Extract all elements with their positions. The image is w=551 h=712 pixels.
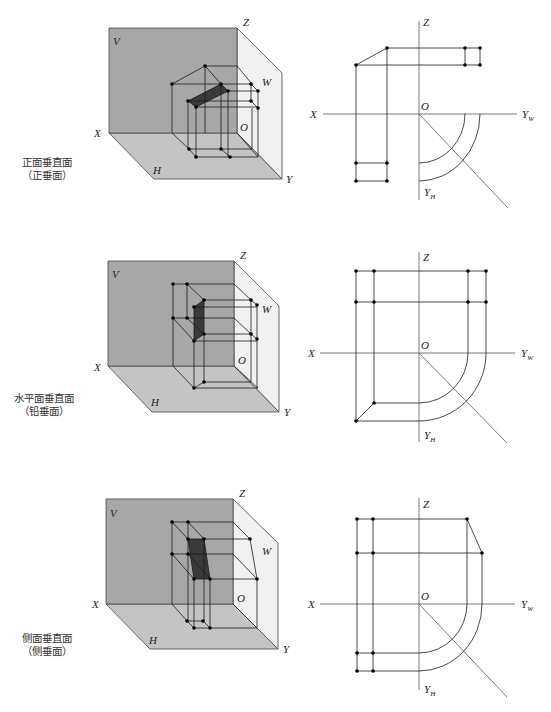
vertex-dot bbox=[463, 63, 467, 67]
label-o: O bbox=[237, 592, 245, 604]
label-y-h: YH bbox=[424, 186, 436, 201]
vertex-dot bbox=[480, 551, 484, 555]
label-x: X bbox=[307, 598, 316, 610]
label-o: O bbox=[238, 354, 246, 366]
label-o: O bbox=[421, 339, 429, 351]
label-x: X bbox=[309, 108, 318, 120]
label-x: X bbox=[307, 347, 316, 359]
vertex-dot bbox=[478, 46, 482, 50]
vertex-dot bbox=[385, 46, 389, 50]
vertex-dot bbox=[354, 179, 358, 183]
vertex-dot bbox=[385, 161, 389, 165]
vertex-dot bbox=[192, 305, 196, 309]
label-w: W bbox=[262, 545, 272, 557]
vertex-dot bbox=[219, 147, 223, 151]
vertex-dot bbox=[249, 99, 253, 103]
isometric-view: VZWXOHY bbox=[93, 16, 294, 185]
vertex-dot bbox=[201, 619, 205, 623]
vertex-dot bbox=[372, 300, 376, 304]
inner-arc bbox=[374, 302, 468, 403]
vertex-dot bbox=[354, 300, 358, 304]
vertex-dot bbox=[371, 669, 375, 673]
diagonal-45-line bbox=[419, 353, 507, 443]
vertex-dot bbox=[202, 298, 206, 302]
vertex-dot bbox=[192, 577, 196, 581]
projection-line bbox=[356, 48, 480, 65]
vertex-dot bbox=[170, 520, 174, 524]
caption-subtitle: （侧垂面） bbox=[7, 645, 87, 658]
vertex-dot bbox=[355, 517, 359, 521]
vertex-dot bbox=[354, 269, 358, 273]
vertex-dot bbox=[255, 577, 259, 581]
label-z: Z bbox=[423, 251, 430, 263]
caption-panel-2: 水平面垂直面 （铅垂面） bbox=[4, 392, 84, 418]
vertex-dot bbox=[255, 303, 259, 307]
vertex-dot bbox=[484, 300, 488, 304]
vertex-dot bbox=[192, 386, 196, 390]
orthographic-view: ZXOYWYH bbox=[309, 16, 535, 208]
diagonal-45-line bbox=[419, 604, 507, 697]
vertex-dot bbox=[186, 99, 190, 103]
vertex-dot bbox=[372, 401, 376, 405]
label-z: Z bbox=[239, 487, 246, 499]
label-o: O bbox=[421, 100, 429, 112]
caption-panel-1: 正面垂直面 （正垂面） bbox=[7, 156, 87, 182]
label-y: Y bbox=[286, 173, 294, 185]
label-o: O bbox=[240, 121, 248, 133]
label-w: W bbox=[262, 76, 272, 88]
label-o: O bbox=[421, 590, 429, 602]
vertex-dot bbox=[226, 89, 230, 93]
label-y-w: YW bbox=[522, 108, 535, 123]
vertex-dot bbox=[203, 64, 207, 68]
vertex-dot bbox=[463, 46, 467, 50]
label-y: Y bbox=[284, 406, 292, 418]
projection-line bbox=[357, 519, 482, 553]
vertex-dot bbox=[371, 551, 375, 555]
vertex-dot bbox=[385, 179, 389, 183]
label-z: Z bbox=[240, 249, 247, 261]
vertex-dot bbox=[466, 300, 470, 304]
vertex-dot bbox=[194, 155, 198, 159]
vertex-dot bbox=[371, 517, 375, 521]
v-plane bbox=[106, 499, 233, 604]
caption-panel-3: 侧面垂直面 （侧垂面） bbox=[7, 632, 87, 658]
vertex-dot bbox=[465, 517, 469, 521]
label-z: Z bbox=[423, 498, 430, 510]
vertex-dot bbox=[248, 537, 252, 541]
vertex-dot bbox=[208, 577, 212, 581]
vertex-dot bbox=[355, 651, 359, 655]
vertex-dot bbox=[371, 651, 375, 655]
vertex-dot bbox=[171, 316, 175, 320]
label-x: X bbox=[93, 127, 102, 139]
caption-title: 水平面垂直面 bbox=[4, 392, 84, 405]
projection-figure: VZWXOHYZXOYWYHVZWXOHYZXOYWYHVZWXOHYZXOYW… bbox=[0, 0, 551, 712]
vertex-dot bbox=[202, 332, 206, 336]
label-y-h: YH bbox=[424, 683, 436, 698]
vertex-dot bbox=[185, 316, 189, 320]
vertex-dot bbox=[466, 269, 470, 273]
caption-title: 正面垂直面 bbox=[7, 156, 87, 169]
vertex-dot bbox=[484, 269, 488, 273]
label-y-w: YW bbox=[521, 598, 534, 613]
label-h: H bbox=[148, 634, 158, 646]
vertex-dot bbox=[186, 552, 190, 556]
label-y: Y bbox=[283, 643, 291, 655]
vertex-dot bbox=[256, 89, 260, 93]
isometric-view: VZWXOHY bbox=[91, 487, 291, 655]
label-y-h: YH bbox=[424, 429, 436, 444]
vertex-dot bbox=[185, 282, 189, 286]
panel-2: VZWXOHYZXOYWYH bbox=[93, 249, 534, 444]
vertex-dot bbox=[192, 626, 196, 630]
vertex-dot bbox=[170, 82, 174, 86]
label-z: Z bbox=[423, 16, 430, 28]
vertex-dot bbox=[202, 380, 206, 384]
vertex-dot bbox=[372, 269, 376, 273]
vertex-dot bbox=[187, 147, 191, 151]
caption-subtitle: （铅垂面） bbox=[4, 405, 84, 418]
vertex-dot bbox=[185, 619, 189, 623]
inner-arc bbox=[373, 519, 467, 653]
panel-3: VZWXOHYZXOYWYH bbox=[91, 487, 534, 698]
vertex-dot bbox=[256, 106, 260, 110]
orthographic-view: ZXOYWYH bbox=[307, 498, 534, 698]
vertex-dot bbox=[355, 669, 359, 673]
